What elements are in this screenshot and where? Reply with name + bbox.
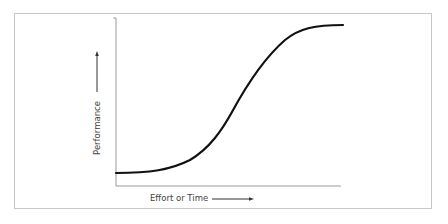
x-axis-label: Effort or Time (150, 193, 208, 203)
s-curve-chart (0, 0, 448, 224)
up-arrow-icon (95, 51, 99, 92)
y-axis-label: Performance (92, 101, 102, 155)
performance-curve (116, 25, 343, 173)
right-arrow-icon (212, 197, 254, 201)
